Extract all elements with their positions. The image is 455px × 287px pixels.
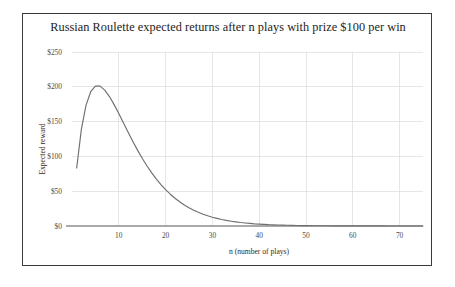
y-tick-label: $200: [47, 82, 62, 91]
x-tick-label: 20: [162, 231, 170, 240]
x-axis-title: n (number of plays): [229, 247, 290, 256]
x-tick-labels-group: 10203040506070: [115, 231, 403, 240]
y-tick-labels-group: $0$50$100$150$200$250: [47, 48, 62, 231]
x-tick-label: 10: [115, 231, 123, 240]
y-tick-label: $100: [47, 152, 62, 161]
x-tick-label: 70: [396, 231, 404, 240]
x-tick-label: 60: [349, 231, 357, 240]
gridlines-group: [72, 52, 423, 226]
x-tick-label: 40: [256, 231, 264, 240]
y-tick-label: $0: [55, 222, 63, 231]
y-axis-title: Expected reward: [38, 123, 47, 174]
y-tick-label: $50: [51, 187, 62, 196]
x-tick-label: 50: [302, 231, 310, 240]
x-tick-label: 30: [209, 231, 217, 240]
y-tick-label: $250: [47, 48, 62, 57]
chart-figure: Russian Roulette expected returns after …: [22, 13, 432, 266]
y-tick-label: $150: [47, 117, 62, 126]
chart-plot-area: $0$50$100$150$200$250 10203040506070 n (…: [23, 14, 433, 267]
